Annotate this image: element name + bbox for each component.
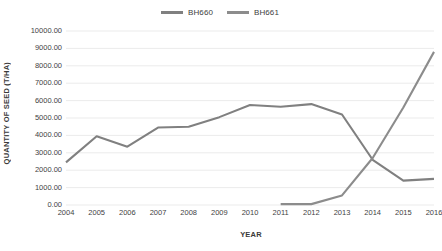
x-axis-tick-label: 2012	[303, 208, 320, 217]
x-axis-tick-label: 2016	[426, 208, 442, 217]
x-axis-title: YEAR	[62, 230, 440, 239]
series-line-bh661[interactable]	[281, 52, 434, 204]
series-lines	[66, 52, 434, 204]
x-axis-tick-label: 2013	[334, 208, 351, 217]
x-axis-tick-labels: 2004200520062007200820092010201120122013…	[0, 208, 440, 222]
x-axis-tick-label: 2006	[119, 208, 136, 217]
x-axis-tick-label: 2010	[242, 208, 259, 217]
x-axis-tick-label: 2005	[88, 208, 105, 217]
x-axis-tick-label: 2008	[180, 208, 197, 217]
x-axis-tick-label: 2011	[273, 208, 289, 217]
series-line-bh660[interactable]	[66, 104, 434, 181]
x-axis-tick-label: 2004	[58, 208, 75, 217]
x-axis-tick-label: 2014	[364, 208, 381, 217]
x-axis-tick-label: 2015	[395, 208, 412, 217]
x-axis-tick-label: 2007	[150, 208, 167, 217]
x-axis-tick-label: 2009	[211, 208, 228, 217]
gridlines	[66, 31, 434, 205]
